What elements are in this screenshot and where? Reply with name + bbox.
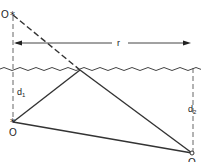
reflected-ray <box>80 70 192 153</box>
depth-1-label: d1 <box>17 87 26 98</box>
diagram-canvas: * * O r d1 O d2 O <box>0 0 201 162</box>
direct-ray <box>13 122 192 153</box>
image-source-label: O <box>1 9 9 20</box>
image-source-star-icon: * <box>10 10 15 21</box>
arrowhead-left-icon <box>14 41 22 46</box>
depth-2-label: d2 <box>188 104 197 115</box>
source-label: O <box>9 127 17 138</box>
receiver-label: O <box>188 157 196 162</box>
receiver-point-icon <box>190 151 194 155</box>
range-label: r <box>117 38 120 48</box>
range-arrow <box>14 41 191 46</box>
arrowhead-right-icon <box>183 41 191 46</box>
water-surface <box>0 68 201 71</box>
